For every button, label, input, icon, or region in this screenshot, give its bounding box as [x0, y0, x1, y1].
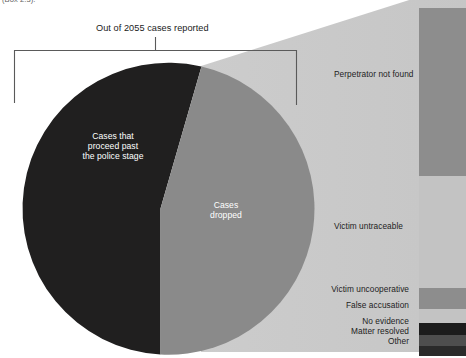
figure-pie-with-breakout: (Box 2.3).	[0, 0, 466, 358]
bar-segment-perpetrator-not-found	[419, 8, 466, 176]
bar-segment-victim-uncooperative	[419, 288, 466, 309]
pie-label-proceed: Cases that proceed past the police stage	[61, 131, 165, 161]
bracket-label: Out of 2055 cases reported	[96, 23, 209, 34]
bar-label-false-accusation: False accusation	[268, 301, 409, 311]
bar-segment-false-accusation	[419, 309, 466, 323]
bar-segment-no-evidence	[419, 323, 466, 335]
bar-label-victim-uncooperative: Victim uncooperative	[268, 285, 409, 295]
pie-label-proceed-line3: the police stage	[61, 151, 165, 161]
pie-label-proceed-line2: proceed past	[61, 141, 165, 151]
bar-label-victim-untraceable: Victim untraceable	[334, 222, 403, 232]
bar-segment-other	[419, 346, 466, 356]
bar-segment-victim-untraceable	[419, 176, 466, 288]
pie-label-dropped: Cases dropped	[191, 200, 261, 220]
pie-label-dropped-line1: Cases	[191, 200, 261, 210]
pie-label-proceed-line1: Cases that	[61, 131, 165, 141]
bar-label-perpetrator-not-found: Perpetrator not found	[334, 70, 413, 80]
pie-label-dropped-line2: dropped	[191, 210, 261, 220]
bar-segment-matter-resolved	[419, 335, 466, 346]
bar-label-other: Other	[268, 337, 409, 347]
